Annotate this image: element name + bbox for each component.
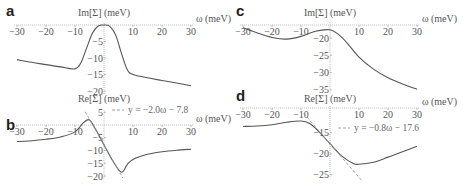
x-tick-label: 30: [412, 26, 422, 37]
x-tick-label: 30: [186, 26, 196, 37]
y-tick-label: −25: [313, 169, 329, 180]
y-tick-label: −15: [87, 69, 103, 80]
x-tick-label: 20: [383, 26, 393, 37]
x-tick-label: 20: [157, 126, 167, 137]
x-axis-label: ω (meV): [422, 96, 457, 108]
y-tick-label: −10: [87, 145, 103, 156]
panel-label-c: c: [236, 2, 244, 19]
x-tick-label: 20: [383, 109, 393, 120]
y-axis-label: Re[Σ] (meV): [304, 93, 356, 105]
x-tick-label: −20: [264, 109, 280, 120]
x-tick-label: 10: [128, 126, 138, 137]
legend-entry: y = −0.8ω − 17.6: [354, 123, 419, 133]
legend-entry: y = −2.0ω − 7.8: [128, 105, 189, 115]
y-tick-label: −10: [87, 53, 103, 64]
y-tick-label: 5: [98, 107, 103, 118]
y-tick-label: −20: [313, 33, 329, 44]
x-tick-label: −20: [38, 126, 54, 137]
x-tick-label: 10: [354, 109, 364, 120]
x-tick-label: −10: [67, 26, 83, 37]
x-tick-label: 10: [128, 26, 138, 37]
x-axis-label: ω (meV): [196, 13, 231, 25]
x-tick-label: −10: [293, 26, 309, 37]
x-tick-label: −20: [38, 26, 54, 37]
x-tick-label: −30: [9, 126, 25, 137]
y-axis-label: Im[Σ] (meV): [78, 7, 130, 19]
x-tick-label: −10: [293, 109, 309, 120]
y-tick-label: −30: [313, 67, 329, 78]
panel-label-d: d: [236, 87, 245, 104]
panel-label-a: a: [6, 2, 15, 19]
x-axis-label: ω (meV): [196, 113, 231, 125]
x-tick-label: 30: [186, 126, 196, 137]
x-tick-label: 30: [412, 109, 422, 120]
y-tick-label: −15: [87, 158, 103, 169]
x-tick-label: −30: [235, 109, 251, 120]
x-tick-label: 20: [157, 26, 167, 37]
y-axis-label: Im[Σ] (meV): [304, 7, 356, 19]
y-tick-label: −25: [313, 50, 329, 61]
x-tick-label: −30: [9, 26, 25, 37]
self-energy-figure: a−30−20−10102030−5−10−15−20Im[Σ] (meV)ω …: [0, 0, 463, 187]
y-tick-label: −5: [92, 36, 103, 47]
x-tick-label: −20: [264, 26, 280, 37]
y-tick-label: −20: [87, 171, 103, 182]
x-tick-label: −30: [235, 26, 251, 37]
y-axis-label: Re[Σ] (meV): [78, 93, 130, 105]
y-tick-label: −20: [313, 148, 329, 159]
x-axis-label: ω (meV): [422, 13, 457, 25]
x-tick-label: 10: [354, 26, 364, 37]
